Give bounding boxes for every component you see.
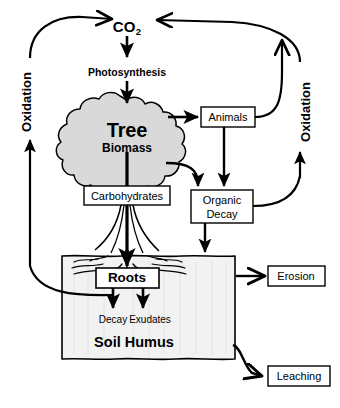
- arrow-oxidation-left-top: [30, 17, 112, 58]
- arrow-oxidation-right-top: [157, 20, 300, 62]
- organic-decay-line2: Decay: [206, 209, 237, 220]
- tree-biomass-title: Tree: [107, 120, 147, 140]
- tree-biomass-subtitle: Biomass: [102, 142, 152, 154]
- leaching-label: Leaching: [277, 371, 322, 382]
- erosion-label: Erosion: [277, 271, 314, 282]
- arrow-oxidation-right: [253, 176, 300, 206]
- root-flare-right: [133, 205, 159, 251]
- root-flare-left: [95, 205, 121, 250]
- co2-label: CO2: [113, 19, 142, 34]
- arrow-animals-to-co2: [255, 40, 282, 117]
- exudates-label: Exudates: [129, 315, 171, 325]
- decay-label: Decay: [99, 315, 127, 325]
- oxidation-right-label: Oxidation: [299, 82, 312, 142]
- roots-label: Roots: [108, 271, 146, 285]
- soil-humus-label: Soil Humus: [94, 335, 174, 350]
- arrow-soil-to-leaching: [233, 345, 262, 376]
- oxidation-left-label: Oxidation: [20, 72, 33, 132]
- photosynthesis-label: Photosynthesis: [88, 67, 166, 78]
- carbohydrates-label: Carbohydrates: [91, 191, 163, 202]
- organic-decay-line1: Organic: [203, 195, 242, 206]
- carbon-cycle-diagram: CO2 Photosynthesis Tree Biomass Carbohyd…: [0, 0, 340, 408]
- animals-label: Animals: [208, 112, 247, 123]
